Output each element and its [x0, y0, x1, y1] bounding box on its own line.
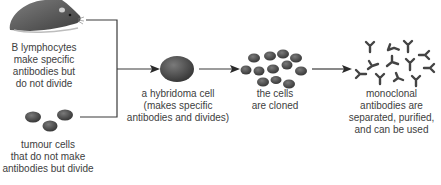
mouse-icon: [10, 0, 84, 32]
hybridoma-label: a hybridoma cell (makes specific antibod…: [122, 88, 234, 124]
label-line: make specific: [2, 54, 86, 66]
cloned-label: the cells are cloned: [240, 88, 310, 112]
cloned-cells-icon: [241, 50, 308, 89]
tumour-cells-icon: [25, 110, 73, 132]
antibodies-icon: [356, 41, 434, 86]
label-line: the cells: [240, 88, 310, 100]
label-line: antibodies but: [2, 66, 86, 78]
label-line: antibodies but divide: [0, 163, 96, 175]
monoclonal-label: monoclonal antibodies are separated, pur…: [342, 88, 441, 136]
label-line: (makes specific: [122, 100, 234, 112]
label-line: monoclonal: [342, 88, 441, 100]
b-lymphocytes-label: B lymphocytes make specific antibodies b…: [2, 42, 86, 90]
label-line: antibodies are: [342, 100, 441, 112]
label-line: separated, purified,: [342, 112, 441, 124]
label-line: a hybridoma cell: [122, 88, 234, 100]
label-line: B lymphocytes: [2, 42, 86, 54]
tumour-cells-label: tumour cells that do not make antibodies…: [0, 139, 96, 175]
label-line: are cloned: [240, 100, 310, 112]
label-line: do not divide: [2, 78, 86, 90]
label-line: that do not make: [0, 151, 96, 163]
hybridoma-cell-icon: [160, 56, 194, 82]
label-line: and can be used: [342, 124, 441, 136]
label-line: antibodies and divides): [122, 112, 234, 124]
label-line: tumour cells: [0, 139, 96, 151]
